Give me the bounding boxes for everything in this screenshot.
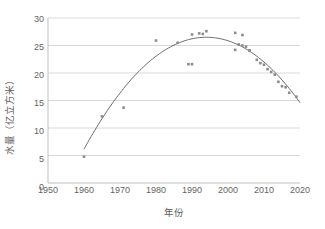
data-point — [263, 63, 266, 66]
data-point — [191, 63, 194, 66]
plot-area — [0, 0, 325, 229]
data-point — [259, 62, 262, 65]
data-point — [234, 32, 237, 35]
data-point — [122, 106, 125, 109]
data-point — [274, 73, 277, 76]
data-point — [270, 71, 273, 74]
data-point — [191, 33, 194, 36]
data-point — [266, 68, 269, 71]
data-point — [234, 49, 237, 52]
data-point — [238, 43, 241, 46]
chart-container: 水量（亿立方米） 30 25 20 15 10 5 0 1950 1960 19… — [0, 0, 325, 229]
data-point — [281, 85, 284, 88]
data-point — [295, 95, 298, 98]
data-point — [248, 49, 251, 52]
data-point — [277, 81, 280, 84]
data-point — [241, 34, 244, 37]
data-point — [202, 33, 205, 36]
gridlines — [48, 18, 300, 156]
data-point — [155, 39, 158, 42]
data-point — [176, 41, 179, 44]
data-point — [284, 86, 287, 89]
data-point — [187, 63, 190, 66]
data-point — [205, 30, 208, 33]
data-point — [241, 44, 244, 47]
data-point — [198, 32, 201, 35]
data-point — [256, 59, 259, 62]
data-point — [101, 115, 104, 118]
data-point-markers — [83, 30, 298, 158]
data-point — [288, 92, 291, 95]
data-point — [83, 155, 86, 158]
x-axis-title: 年份 — [48, 205, 300, 219]
data-point — [245, 45, 248, 48]
trendline-path — [84, 37, 300, 149]
